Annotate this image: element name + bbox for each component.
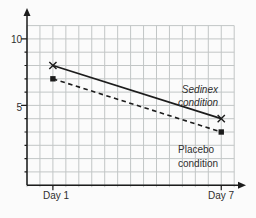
square-marker-icon — [219, 129, 224, 134]
y-axis-arrow-icon — [24, 8, 31, 16]
sedinex-label-line1: Sedinex — [170, 83, 218, 96]
line-chart-figure: 10 5 Day 1 Day 7 Sedinex condition Place… — [0, 0, 256, 218]
placebo-series-label: Placebo condition — [178, 143, 230, 171]
x-tick-label-day1: Day 1 — [36, 190, 76, 201]
placebo-label-line1: Placebo — [178, 143, 230, 157]
square-marker-icon — [50, 76, 55, 81]
sedinex-label-line2: condition — [170, 96, 218, 109]
placebo-label-line2: condition — [178, 157, 230, 171]
y-tick-label-5: 5 — [6, 102, 22, 113]
x-tick-label-day7: Day 7 — [201, 190, 241, 201]
x-axis-arrow-icon — [238, 182, 246, 189]
plot-canvas — [0, 0, 256, 218]
y-tick-label-10: 10 — [6, 34, 22, 45]
sedinex-series-label: Sedinex condition — [170, 83, 218, 109]
